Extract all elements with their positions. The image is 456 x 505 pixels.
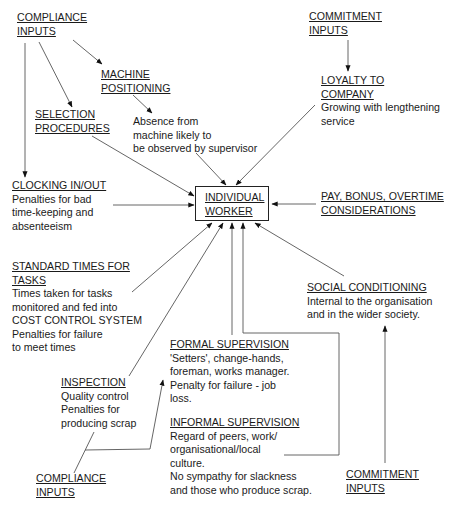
node-body-line: Quality control xyxy=(61,390,136,404)
node-title: INFORMAL SUPERVISION xyxy=(170,416,312,430)
node-body-line: culture. xyxy=(170,457,312,471)
node-body-line: Growing with lengthening xyxy=(321,101,440,115)
individual-worker-title-2: WORKER xyxy=(205,205,268,219)
node-title: CLOCKING IN/OUT xyxy=(12,179,106,193)
node-body-line: Penalties for xyxy=(61,403,136,417)
node-body-line: Regard of peers, work/ xyxy=(170,430,312,444)
compliance-inputs-bottom: COMPLIANCE INPUTS xyxy=(36,472,106,499)
node-body-line: producing scrap xyxy=(61,417,136,431)
machine-positioning-node: MACHINE POSITIONING xyxy=(101,68,170,95)
commitment-inputs-top: COMMITMENT INPUTS xyxy=(309,10,382,37)
node-body-line: to meet times xyxy=(12,341,142,355)
node-title: INPUTS xyxy=(309,24,382,38)
node-body-line: time-keeping and xyxy=(12,206,106,220)
selection-procedures-node: SELECTION PROCEDURES xyxy=(35,108,110,135)
node-title: SOCIAL CONDITIONING xyxy=(307,281,432,295)
node-body-line: Internal to the organisation xyxy=(307,295,432,309)
node-title: INPUTS xyxy=(36,486,106,500)
node-body-line: Absence from xyxy=(133,115,257,129)
node-body-line: loss. xyxy=(170,392,290,406)
social-conditioning-node: SOCIAL CONDITIONING Internal to the orga… xyxy=(307,281,432,322)
clocking-in-out-node: CLOCKING IN/OUT Penalties for bad time-k… xyxy=(12,179,106,233)
standard-times-node: STANDARD TIMES FOR TASKS Times taken for… xyxy=(12,260,142,355)
loyalty-to-company-node: LOYALTY TO COMPANY Growing with lengthen… xyxy=(321,74,440,128)
node-title: MACHINE xyxy=(101,68,170,82)
individual-worker-box: INDIVIDUAL WORKER xyxy=(195,186,269,221)
node-body-line: and in the wider society. xyxy=(307,308,432,322)
node-title: COMMITMENT xyxy=(346,468,419,482)
node-title: LOYALTY TO xyxy=(321,74,440,88)
node-title: COMPLIANCE xyxy=(36,472,106,486)
node-body-line: Penalty for failure - job xyxy=(170,379,290,393)
node-body-line: and those who produce scrap. xyxy=(170,484,312,498)
commitment-inputs-bottom: COMMITMENT INPUTS xyxy=(346,468,419,495)
node-title: SELECTION xyxy=(35,108,110,122)
node-body-line: No sympathy for slackness xyxy=(170,470,312,484)
node-title: COMPANY xyxy=(321,88,440,102)
node-title: PAY, BONUS, OVERTIME xyxy=(321,190,444,204)
node-body-line: be observed by supervisor xyxy=(133,142,257,156)
node-body-line: monitored and fed into xyxy=(12,301,142,315)
node-body-line: absenteeism xyxy=(12,220,106,234)
node-title: COMMITMENT xyxy=(309,10,382,24)
node-body-line: foreman, works manager. xyxy=(170,365,290,379)
node-title: INPUTS xyxy=(346,482,419,496)
individual-worker-title-1: INDIVIDUAL xyxy=(205,191,268,205)
node-body-line: Penalties for bad xyxy=(12,193,106,207)
node-body-line: COST CONTROL SYSTEM xyxy=(12,314,142,328)
node-body-line: organisational/local xyxy=(170,443,312,457)
node-title: PROCEDURES xyxy=(35,122,110,136)
inspection-node: INSPECTION Quality control Penalties for… xyxy=(61,376,136,430)
node-body-line: service xyxy=(321,115,440,129)
node-title: FORMAL SUPERVISION xyxy=(170,338,290,352)
node-body-line: machine likely to xyxy=(133,129,257,143)
node-title: CONSIDERATIONS xyxy=(321,204,444,218)
formal-supervision-node: FORMAL SUPERVISION 'Setters', change-han… xyxy=(170,338,290,406)
node-title: COMPLIANCE xyxy=(17,11,87,25)
informal-supervision-node: INFORMAL SUPERVISION Regard of peers, wo… xyxy=(170,416,312,497)
pay-bonus-overtime-node: PAY, BONUS, OVERTIME CONSIDERATIONS xyxy=(321,190,444,217)
node-body-line: Penalties for failure xyxy=(12,328,142,342)
node-title: TASKS xyxy=(12,274,142,288)
machine-positioning-body: Absence from machine likely to be observ… xyxy=(133,115,257,156)
node-title: POSITIONING xyxy=(101,82,170,96)
node-body-line: 'Setters', change-hands, xyxy=(170,352,290,366)
compliance-inputs-top: COMPLIANCE INPUTS xyxy=(17,11,87,38)
node-body-line: Times taken for tasks xyxy=(12,287,142,301)
node-title: STANDARD TIMES FOR xyxy=(12,260,142,274)
node-title: INPUTS xyxy=(17,25,87,39)
node-title: INSPECTION xyxy=(61,376,136,390)
